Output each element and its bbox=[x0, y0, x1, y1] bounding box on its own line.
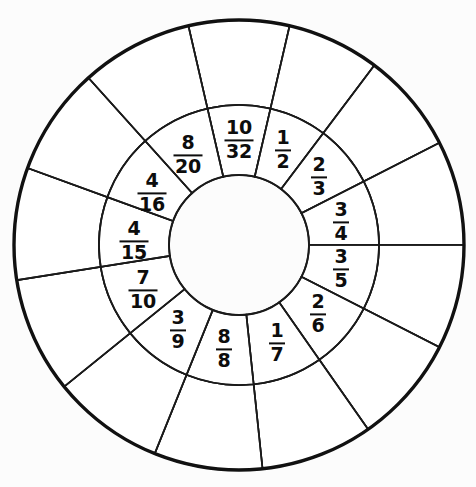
fraction-numerator: 4 bbox=[120, 219, 149, 238]
fraction-numerator: 2 bbox=[310, 292, 326, 311]
fraction-numerator: 3 bbox=[333, 200, 349, 219]
fraction-label: 88 bbox=[216, 327, 232, 370]
fraction-numerator: 2 bbox=[311, 155, 327, 174]
fraction-denominator: 2 bbox=[275, 153, 291, 172]
fraction-numerator: 1 bbox=[269, 321, 285, 340]
fraction-label: 416 bbox=[138, 171, 167, 214]
center-hub-circle bbox=[169, 175, 309, 315]
fraction-label: 26 bbox=[310, 292, 326, 335]
fraction-label: 35 bbox=[333, 247, 349, 290]
fraction-numerator: 3 bbox=[333, 247, 349, 266]
fraction-denominator: 9 bbox=[170, 333, 186, 352]
fraction-denominator: 6 bbox=[310, 317, 326, 336]
fraction-wheel-figure: 10321223343526178839710415416820 bbox=[0, 0, 476, 487]
fraction-numerator: 4 bbox=[138, 171, 167, 190]
fraction-denominator: 7 bbox=[269, 346, 285, 365]
fraction-numerator: 8 bbox=[174, 133, 203, 152]
fraction-label: 820 bbox=[174, 133, 203, 176]
fraction-denominator: 20 bbox=[174, 158, 203, 177]
fraction-numerator: 7 bbox=[129, 268, 158, 287]
fraction-label: 1032 bbox=[225, 118, 254, 161]
fraction-numerator: 10 bbox=[225, 118, 254, 137]
fraction-denominator: 4 bbox=[333, 225, 349, 244]
fraction-label: 17 bbox=[269, 321, 285, 364]
fraction-numerator: 8 bbox=[216, 327, 232, 346]
fraction-label: 34 bbox=[333, 200, 349, 243]
fraction-label: 12 bbox=[275, 128, 291, 171]
fraction-denominator: 5 bbox=[333, 272, 349, 291]
fraction-numerator: 3 bbox=[170, 308, 186, 327]
fraction-denominator: 8 bbox=[216, 352, 232, 371]
fraction-label: 23 bbox=[311, 155, 327, 198]
fraction-label: 710 bbox=[129, 268, 158, 311]
fraction-label: 415 bbox=[120, 219, 149, 262]
fraction-denominator: 15 bbox=[120, 244, 149, 263]
fraction-label: 39 bbox=[170, 308, 186, 351]
fraction-wheel-canvas bbox=[0, 0, 476, 487]
fraction-denominator: 16 bbox=[138, 196, 167, 215]
fraction-denominator: 32 bbox=[225, 143, 254, 162]
fraction-denominator: 3 bbox=[311, 180, 327, 199]
fraction-numerator: 1 bbox=[275, 128, 291, 147]
fraction-denominator: 10 bbox=[129, 293, 158, 312]
